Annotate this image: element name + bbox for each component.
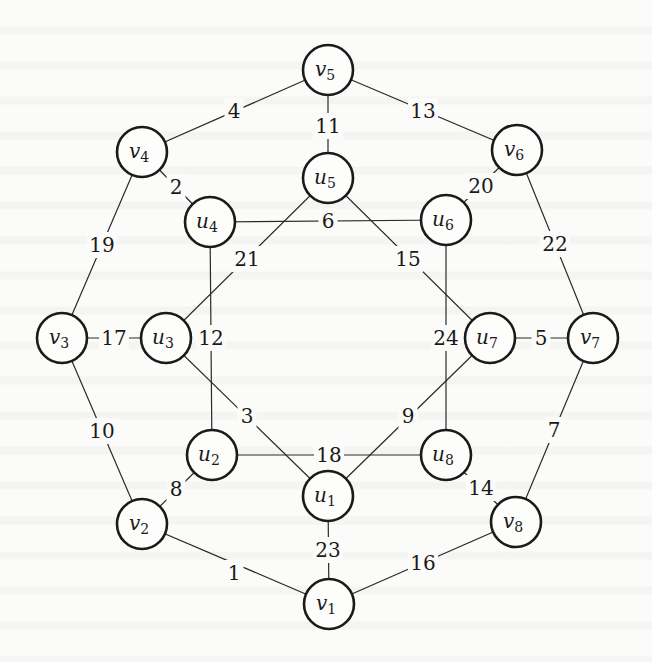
- weighted-graph-svg: 123456789101112131415161718192021222324 …: [0, 0, 652, 662]
- node-label-base: v: [129, 139, 141, 163]
- edge-weight-label: 23: [313, 537, 343, 563]
- edge-weight-label: 9: [399, 403, 418, 429]
- node-label-subscript: 4: [209, 219, 218, 235]
- edge-weight-text: 17: [101, 326, 126, 350]
- edge-weight-text: 11: [315, 114, 340, 138]
- edge-weight-text: 2: [170, 175, 183, 199]
- node-label-subscript: 8: [445, 452, 454, 468]
- node-label-base: u: [314, 165, 327, 189]
- edge-weight-text: 20: [468, 174, 493, 198]
- edge-weight-label: 15: [393, 246, 423, 272]
- node-label-base: v: [315, 57, 327, 81]
- edge-weight-label: 12: [196, 325, 226, 351]
- node-label-base: u: [432, 442, 445, 466]
- edge-weight-text: 24: [433, 326, 458, 350]
- edge-weight-label: 8: [167, 476, 186, 502]
- edge-weight-label: 18: [314, 442, 344, 468]
- node-v5: v5: [303, 45, 353, 95]
- node-label-base: u: [196, 209, 209, 233]
- node-label-subscript: 8: [514, 519, 523, 535]
- node-u6: u6: [421, 195, 471, 245]
- node-label-subscript: 2: [140, 521, 149, 537]
- edge-weight-text: 23: [315, 538, 340, 562]
- node-label-subscript: 2: [211, 452, 220, 468]
- edge-weight-text: 4: [228, 99, 241, 123]
- node-label-base: u: [314, 483, 327, 507]
- edge-weight-label: 4: [225, 98, 244, 124]
- node-label-subscript: 5: [327, 175, 336, 191]
- node-label-subscript: 7: [489, 335, 498, 351]
- edge-weight-label: 1: [225, 560, 244, 586]
- node-label-base: v: [580, 325, 592, 349]
- node-label-base: u: [476, 325, 489, 349]
- edge-weight-text: 19: [89, 233, 114, 257]
- node-label-subscript: 3: [60, 335, 69, 351]
- graph-figure: 123456789101112131415161718192021222324 …: [0, 0, 652, 662]
- edge-weight-text: 5: [535, 326, 548, 350]
- edge-weight-text: 6: [322, 209, 335, 233]
- node-u8: u8: [421, 430, 471, 480]
- edge-weight-label: 7: [545, 417, 564, 443]
- edge-weight-text: 15: [395, 247, 420, 271]
- edge-weight-text: 21: [234, 247, 259, 271]
- node-label-base: u: [198, 442, 211, 466]
- node-v7: v7: [568, 313, 618, 363]
- node-v3: v3: [37, 313, 87, 363]
- edge-weight-text: 1: [228, 561, 241, 585]
- edge-weight-text: 8: [170, 477, 183, 501]
- edge-weight-label: 3: [238, 403, 257, 429]
- node-u5: u5: [303, 153, 353, 203]
- edge-weight-text: 22: [542, 232, 567, 256]
- edge-weight-text: 18: [316, 443, 341, 467]
- edge-weight-label: 10: [87, 418, 117, 444]
- node-u4: u4: [185, 197, 235, 247]
- node-label-base: v: [503, 509, 515, 533]
- edge-weight-label: 24: [431, 325, 461, 351]
- edge-weight-text: 10: [89, 419, 114, 443]
- edge-weight-text: 13: [410, 99, 435, 123]
- edge-weight-label: 6: [319, 208, 338, 234]
- node-label-base: v: [316, 591, 328, 615]
- node-label-base: v: [504, 137, 516, 161]
- node-label-base: v: [49, 325, 61, 349]
- node-label-subscript: 3: [165, 335, 174, 351]
- node-u7: u7: [465, 313, 515, 363]
- edge-weight-text: 9: [402, 404, 415, 428]
- node-label-subscript: 6: [515, 147, 524, 163]
- node-label-subscript: 5: [326, 67, 335, 83]
- node-label-base: u: [432, 207, 445, 231]
- edge-weight-text: 3: [241, 404, 254, 428]
- edge-weight-label: 21: [232, 246, 262, 272]
- edge-weight-label: 14: [466, 475, 496, 501]
- edge-weight-label: 20: [466, 173, 496, 199]
- node-label-subscript: 7: [591, 335, 600, 351]
- node-u1: u1: [303, 471, 353, 521]
- node-label-subscript: 1: [327, 601, 336, 617]
- edge-weight-label: 17: [99, 325, 129, 351]
- edge-weight-label: 19: [87, 232, 117, 258]
- node-label-base: v: [129, 511, 141, 535]
- node-v2: v2: [117, 499, 167, 549]
- edge-weight-label: 11: [313, 113, 343, 139]
- edge-weight-text: 16: [410, 551, 435, 575]
- node-label-subscript: 1: [327, 493, 336, 509]
- edge-weight-label: 22: [540, 231, 570, 257]
- node-v6: v6: [492, 125, 542, 175]
- node-label-subscript: 6: [445, 217, 454, 233]
- node-v4: v4: [117, 127, 167, 177]
- edge-weight-text: 12: [198, 326, 223, 350]
- edge-weight-label: 16: [408, 550, 438, 576]
- node-u2: u2: [187, 430, 237, 480]
- edge-weight-label: 2: [167, 174, 186, 200]
- edge-weight-label: 13: [408, 98, 438, 124]
- node-label-base: u: [152, 325, 165, 349]
- edge-weight-text: 14: [468, 476, 493, 500]
- node-v8: v8: [491, 497, 541, 547]
- node-v1: v1: [304, 579, 354, 629]
- node-label-subscript: 4: [140, 149, 149, 165]
- node-u3: u3: [141, 313, 191, 363]
- edge-weight-label: 5: [532, 325, 551, 351]
- edge-weight-text: 7: [548, 418, 561, 442]
